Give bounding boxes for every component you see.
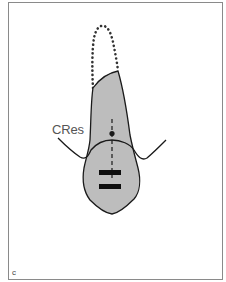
diagram-canvas xyxy=(0,0,226,282)
center-of-resistance-dot xyxy=(109,131,114,136)
bracket-bar-upper xyxy=(99,170,121,175)
bracket-bar-lower xyxy=(99,184,121,189)
tooth-diagram-panel: CRes c xyxy=(0,0,226,282)
cres-label: CRes xyxy=(52,122,84,137)
panel-label: c xyxy=(12,268,16,277)
